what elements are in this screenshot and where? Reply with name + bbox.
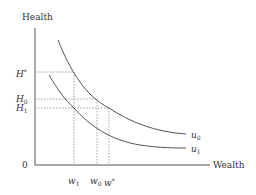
curve-u1 xyxy=(49,75,186,148)
curve-label-u1: u1 xyxy=(191,144,201,157)
tick-w-star: w* xyxy=(104,176,115,188)
tick-h-star: H* xyxy=(16,67,27,79)
tick-w1: w1 xyxy=(68,176,80,189)
origin-label: 0 xyxy=(22,160,28,170)
curve-label-u0: u0 xyxy=(191,130,201,143)
y-axis-label: Health xyxy=(22,12,53,22)
curve-u0 xyxy=(58,40,186,134)
x-axis-label: Wealth xyxy=(213,160,245,170)
tick-h1: H1 xyxy=(16,103,28,116)
tick-w0: w0 xyxy=(90,176,102,189)
